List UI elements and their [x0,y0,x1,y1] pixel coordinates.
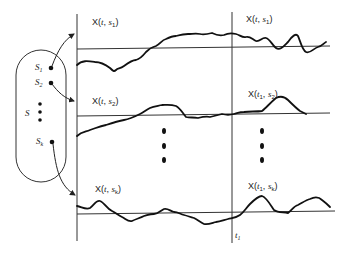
row1-baseline [77,46,330,49]
row1-right-label: X(t, s1) [246,14,272,25]
row2-left-label: X(t, s2) [92,96,118,107]
ensemble-ellipsis-dot [260,143,264,149]
outcome-s1-dot [49,66,54,71]
rowk-right-label: X(t1, sk) [248,181,277,192]
ellipsis-dot [38,118,42,122]
row1-left-label: X(t, s1) [92,17,118,28]
arrow-s2-to-row2 [52,84,74,101]
arrow-s1-to-row1 [52,34,74,66]
outcome-sk-label: Sk [36,136,44,147]
random-process-diagram: S1 S2 S Sk X(t, s1) X(t, s1) X(t, s2) X(… [0,0,345,253]
outcome-s2-label: S2 [35,77,43,88]
row2-baseline [77,113,330,116]
ensemble-ellipsis-dot [162,143,166,149]
time-marker-t1-label: t1 [235,230,241,241]
ensemble-ellipsis-dot [162,157,166,163]
rowk-left-label: X(t, sk) [95,184,121,195]
outcome-s1-label: S1 [35,62,43,73]
outcome-sk-dot [50,140,55,145]
ellipsis-dot [38,102,42,106]
ellipsis-dot [38,110,42,114]
ensemble-ellipsis-dot [260,128,264,134]
ensemble-ellipsis-dot [162,128,166,134]
ensemble-ellipsis-dot [260,157,264,163]
sample-function-s1 [77,33,326,71]
sample-function-sk [77,196,330,224]
arrow-sk-to-rowk [53,144,75,195]
sample-space-label: S [25,108,30,118]
row2-right-label: X(t1, s2) [248,89,278,100]
